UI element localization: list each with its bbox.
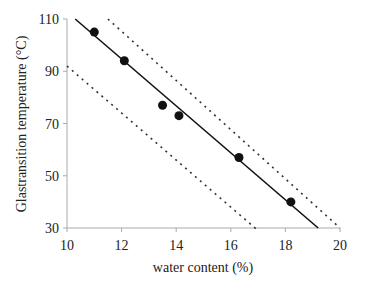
data-point <box>174 111 183 120</box>
regression-line-line <box>75 19 318 228</box>
y-tick-label: 50 <box>45 169 59 184</box>
y-tick-label: 90 <box>45 64 59 79</box>
x-tick-label: 18 <box>278 238 292 253</box>
data-point <box>90 28 99 37</box>
fit-lines <box>67 19 340 231</box>
x-tick-label: 20 <box>333 238 347 253</box>
x-axis-label: water content (%) <box>153 260 254 276</box>
data-point <box>234 153 243 162</box>
axes: 30507090110101214161820 <box>39 12 347 253</box>
data-points <box>90 28 296 207</box>
x-tick-label: 12 <box>115 238 129 253</box>
data-point <box>286 197 295 206</box>
x-tick-label: 14 <box>169 238 183 253</box>
scatter-chart: 30507090110101214161820 water content (%… <box>0 0 389 287</box>
data-point <box>120 56 129 65</box>
upper-bound-line <box>108 19 340 228</box>
y-tick-label: 30 <box>45 221 59 236</box>
y-axis-label: Glastransition temperature (°C) <box>14 35 30 212</box>
y-tick-label: 110 <box>39 12 59 27</box>
y-tick-label: 70 <box>45 117 59 132</box>
x-tick-label: 10 <box>60 238 74 253</box>
x-tick-label: 16 <box>224 238 238 253</box>
data-point <box>158 101 167 110</box>
lower-bound-line <box>67 66 258 231</box>
